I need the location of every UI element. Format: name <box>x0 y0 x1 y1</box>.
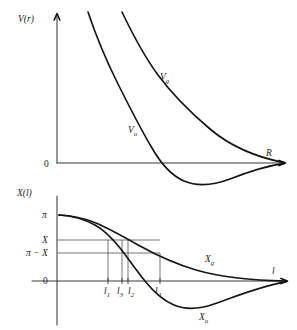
curve-Vu <box>88 12 284 185</box>
lower-y-tick-label-pi: π <box>42 210 47 220</box>
lower-x-tick-label-l2: l2 <box>128 286 135 298</box>
lower-y-tick-label-zero: 0 <box>43 276 48 286</box>
lower-x-axis-label: l <box>272 266 275 276</box>
lower-x-tick-label-l4: l4 <box>155 286 162 298</box>
lower-x-tick-label-l3: l3 <box>117 286 124 298</box>
lower-x-tick-label-l1: l1 <box>104 286 110 298</box>
curve-label-Xg: Xg <box>204 254 215 266</box>
curve-label-Vg: Vg <box>160 72 170 84</box>
curve-label-Vu: Vu <box>128 125 138 137</box>
lower-y-tick-label-pi-minus-X: π − X <box>26 248 49 258</box>
upper-plot: V(r) 0 R Vg Vu <box>18 12 286 185</box>
curve-label-Xu: Xu <box>198 312 209 324</box>
curve-Vg <box>122 12 284 163</box>
upper-y-axis-label: V(r) <box>18 14 34 25</box>
upper-origin-label: 0 <box>44 159 49 169</box>
lower-y-axis-label: X(l) <box>16 188 32 199</box>
upper-x-axis-label: R <box>265 148 272 158</box>
figure-root: V(r) 0 R Vg Vu <box>0 0 297 330</box>
curve-Xg <box>59 215 286 281</box>
figure-canvas: V(r) 0 R Vg Vu <box>0 0 297 330</box>
lower-plot: π X π − X 0 X(l) l l1 <box>16 188 288 325</box>
lower-y-tick-label-X: X <box>41 235 49 245</box>
